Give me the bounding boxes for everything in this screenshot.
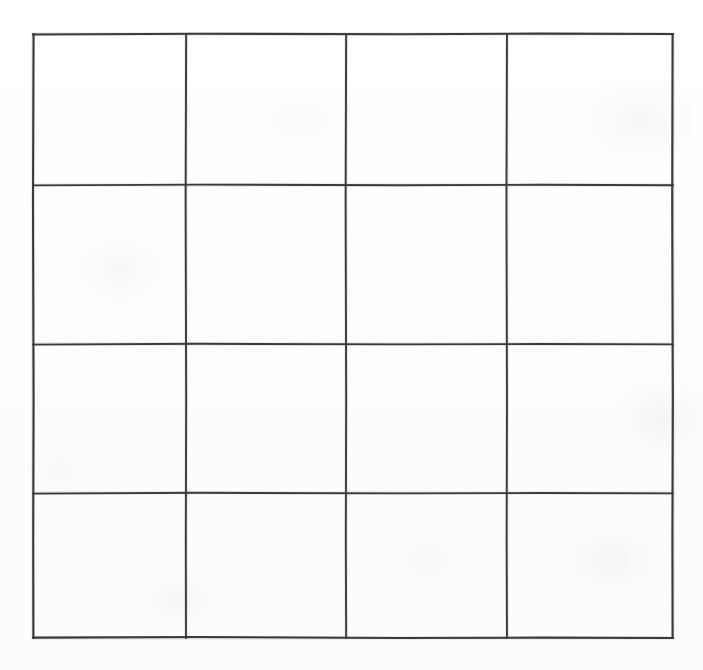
grid-line-vertical-2	[186, 34, 187, 638]
grid-line-horizontal-3	[33, 344, 673, 345]
grid-cell-r1-c1[interactable]	[35, 36, 184, 183]
grid-line-left	[33, 34, 34, 638]
grid-cell-r1-c2[interactable]	[188, 36, 344, 183]
grid-cell-r2-c4[interactable]	[509, 187, 671, 342]
grid-line-horizontal-2	[33, 185, 673, 186]
grid-cell-r4-c3[interactable]	[348, 495, 505, 636]
grid-cell-r3-c3[interactable]	[348, 346, 505, 491]
grid-line-top	[33, 34, 673, 35]
grid-cell-r3-c2[interactable]	[188, 346, 344, 491]
grid-cell-r3-c4[interactable]	[509, 346, 671, 491]
grid-cell-r2-c2[interactable]	[188, 187, 344, 342]
grid-line-horizontal-4	[33, 493, 673, 494]
grid-cell-r1-c4[interactable]	[509, 36, 671, 183]
grid-cell-r2-c3[interactable]	[348, 187, 505, 342]
grid-cell-r3-c1[interactable]	[35, 346, 184, 491]
grid-cell-r4-c4[interactable]	[509, 495, 671, 636]
page-canvas	[0, 0, 703, 670]
grid-cell-r4-c1[interactable]	[35, 495, 184, 636]
grid-cell-r4-c2[interactable]	[188, 495, 344, 636]
grid-line-vertical-4	[506, 34, 507, 638]
grid-cell-r2-c1[interactable]	[35, 187, 184, 342]
grid-line-right	[672, 34, 673, 638]
grid-cell-r1-c3[interactable]	[348, 36, 505, 183]
grid-line-bottom	[33, 637, 673, 638]
grid-line-vertical-3	[346, 34, 347, 638]
